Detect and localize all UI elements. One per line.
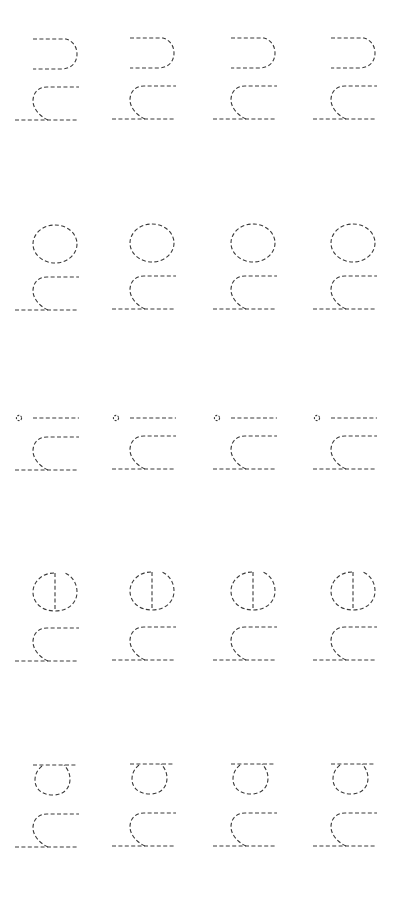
cell-row4-col3 [213,572,277,660]
cell-row1-col4 [313,38,377,119]
tracing-glyphs [0,0,395,898]
cell-row4-col2 [112,572,176,660]
cell-row1-col1 [15,39,79,120]
cell-row5-col4 [313,764,377,846]
cell-row2-col4 [313,224,377,309]
cell-row3-col3 [213,415,277,469]
cell-row2-col2 [112,224,176,309]
cell-row3-col1 [15,415,79,470]
cell-row2-col1 [15,225,79,310]
cell-row2-col3 [213,224,277,309]
cell-row1-col2 [112,38,176,119]
tracing-worksheet: hn ho hi he ha [0,0,395,898]
cell-row3-col4 [313,415,377,469]
cell-row1-col3 [213,38,277,119]
cell-row4-col4 [313,572,377,660]
cell-row5-col3 [213,764,277,846]
cell-row4-col1 [15,573,79,661]
cell-row5-col2 [112,764,176,846]
cell-row3-col2 [112,415,176,469]
cell-row5-col1 [15,765,79,847]
